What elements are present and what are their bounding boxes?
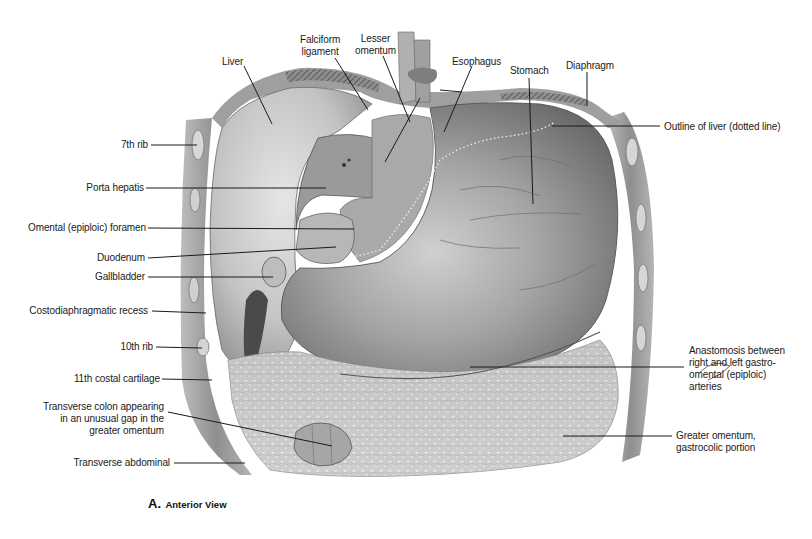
label-anastomosis: Anastomosis between right and left gastr… xyxy=(689,345,785,393)
label-esophagus: Esophagus xyxy=(452,56,501,68)
label-outline-of-liver: Outline of liver (dotted line) xyxy=(664,121,781,133)
label-transverse-abdominal: Transverse abdominal xyxy=(73,457,170,469)
label-10th-rib: 10th rib xyxy=(120,341,153,353)
caption-letter: A. xyxy=(148,496,161,511)
label-liver: Liver xyxy=(222,56,243,68)
leader-esophagus-2 xyxy=(440,90,462,92)
label-transverse-colon: Transverse colon appearing in an unusual… xyxy=(43,401,164,437)
caption-text: Anterior View xyxy=(165,499,226,510)
label-diaphragm: Diaphragm xyxy=(566,60,614,72)
label-omental-foramen: Omental (epiploic) foramen xyxy=(28,222,146,234)
label-7th-rib: 7th rib xyxy=(121,139,148,151)
label-greater-omentum: Greater omentum, gastrocolic portion xyxy=(676,430,756,454)
anatomy-figure: Liver Falciform ligament Lesser omentum … xyxy=(0,0,812,539)
label-gallbladder: Gallbladder xyxy=(95,271,145,283)
label-duodenum: Duodenum xyxy=(97,252,145,264)
label-stomach: Stomach xyxy=(510,65,549,77)
label-porta-hepatis: Porta hepatis xyxy=(86,182,144,194)
label-lesser-omentum: Lesser omentum xyxy=(355,33,396,57)
figure-caption: A. Anterior View xyxy=(148,494,227,512)
label-falciform-ligament: Falciform ligament xyxy=(300,34,340,58)
label-costodiaphragmatic-recess: Costodiaphragmatic recess xyxy=(29,305,148,317)
label-11th-costal-cartilage: 11th costal cartilage xyxy=(74,373,160,385)
